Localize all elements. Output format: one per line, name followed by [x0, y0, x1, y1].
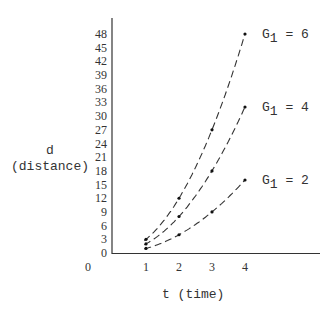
- data-point: [177, 197, 180, 200]
- series-label-base: G: [262, 27, 270, 42]
- data-point: [210, 128, 213, 131]
- data-point: [144, 247, 147, 250]
- y-tick-label: 45: [95, 41, 107, 55]
- x-tick-label: 1: [143, 260, 149, 274]
- y-axis-label: d (distance): [0, 143, 100, 175]
- data-point: [144, 238, 147, 241]
- series-label-value: = 6: [278, 27, 309, 42]
- y-tick-label: 9: [101, 205, 107, 219]
- data-point: [144, 242, 147, 245]
- series-label-subscript: 1: [270, 104, 278, 119]
- data-point: [243, 105, 246, 108]
- data-point: [177, 233, 180, 236]
- y-tick-label: 48: [95, 27, 107, 41]
- data-point: [243, 32, 246, 35]
- series-label-base: G: [262, 173, 270, 188]
- series-label-value: = 4: [278, 100, 309, 115]
- x-tick-label: 3: [209, 260, 215, 274]
- x-tick-label: 0: [85, 260, 91, 274]
- series-label-subscript: 1: [270, 177, 278, 192]
- y-tick-label: 39: [95, 68, 107, 82]
- series-label-subscript: 1: [270, 31, 278, 46]
- y-axis-label-text: (distance): [0, 159, 100, 175]
- y-tick-label: 0: [101, 246, 107, 260]
- y-axis-label-symbol: d: [0, 143, 100, 159]
- x-tick-label: 4: [242, 260, 248, 274]
- y-tick-label: 42: [95, 54, 107, 68]
- data-point: [210, 169, 213, 172]
- series-label: G1 = 2: [262, 173, 309, 192]
- y-tick-label: 27: [95, 123, 107, 137]
- series-curve: [144, 107, 245, 245]
- series-curve: [144, 180, 245, 249]
- y-tick-label: 12: [95, 191, 107, 205]
- series-label-value: = 2: [278, 173, 309, 188]
- data-point: [177, 215, 180, 218]
- data-point: [210, 210, 213, 213]
- series-label: G1 = 4: [262, 100, 309, 119]
- y-tick-label: 6: [101, 219, 107, 233]
- y-tick-label: 36: [95, 82, 107, 96]
- y-tick-label: 33: [95, 95, 107, 109]
- series-label: G1 = 6: [262, 27, 309, 46]
- series-curve: [144, 34, 245, 241]
- x-axis-label: t (time): [162, 287, 224, 302]
- data-point: [243, 178, 246, 181]
- y-tick-label: 15: [95, 178, 107, 192]
- x-tick-label: 2: [176, 260, 182, 274]
- y-tick-label: 3: [101, 232, 107, 246]
- y-tick-label: 30: [95, 109, 107, 123]
- series-label-base: G: [262, 100, 270, 115]
